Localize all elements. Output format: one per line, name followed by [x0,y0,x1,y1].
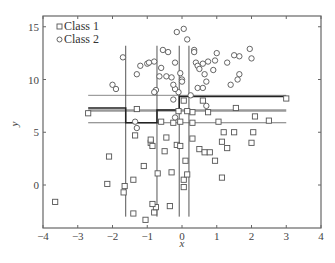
class-2-marker [160,47,165,52]
class-1-marker [284,96,289,101]
class-1-marker [266,118,271,123]
class-1-marker [252,114,257,119]
class-1-marker [219,139,224,144]
x-axis-label: x [179,237,185,249]
class-1-marker [200,98,205,103]
class-1-marker [181,177,186,182]
class-1-marker [233,105,238,110]
x-tick-label: 2 [249,230,255,242]
class-1-marker [143,217,148,222]
class-1-marker [171,120,176,125]
class-2-marker [134,72,139,77]
class-1-marker [202,150,207,155]
class-1-marker [106,154,111,159]
class-2-marker [113,86,118,91]
class-2-marker [157,74,162,79]
y-tick-label: 10 [28,74,40,86]
class-2-marker [138,63,143,68]
class-2-marker [204,79,209,84]
class-1-marker [162,149,167,154]
class-2-marker [228,82,233,87]
class-2-marker [178,70,183,75]
y-axis-label: y [8,121,20,127]
class-2-marker [120,55,125,60]
class-2-marker [134,125,139,130]
legend-circle-icon [57,37,62,42]
class-2-marker [188,93,193,98]
class-2-marker [224,60,229,65]
class-1-marker [190,136,195,141]
class-1-marker [207,150,212,155]
class-1-marker [131,211,136,216]
class-1-marker [141,163,146,168]
x-tick-label: −3 [72,230,84,242]
class-1-marker [105,181,110,186]
class-1-marker [150,143,155,148]
y-tick-label: 0 [34,179,40,191]
class-2-marker [174,29,179,34]
class-2-marker [212,58,217,63]
class-2-marker [249,56,254,61]
class-1-marker [152,210,157,215]
class-1-marker [212,158,217,163]
class-1-marker [232,130,237,135]
class-2-marker [214,50,219,55]
legend-label-class-2: Class 2 [64,32,99,46]
class-2-marker [152,59,157,64]
class-1-marker [53,199,58,204]
class-1-marker [185,109,190,114]
class-1-marker [86,111,91,116]
class-2-marker [237,54,242,59]
x-tick-label: −4 [37,230,49,242]
class-1-marker [185,172,190,177]
class-2-marker [211,67,216,72]
class-1-marker [183,158,188,163]
class-2-marker [204,103,209,108]
x-tick-label: −2 [107,230,119,242]
class-2-marker [185,37,190,42]
class-2-marker [235,77,240,82]
class-2-marker [132,119,137,124]
legend-label-class-1: Class 1 [64,19,99,33]
class-1-marker [121,190,126,195]
class-1-marker [178,143,183,148]
class-1-marker [249,140,254,145]
class-1-marker [219,175,224,180]
class-1-marker [122,183,127,188]
class-2-marker [200,85,205,90]
class-2-marker [164,74,169,79]
class-2-marker [158,65,163,70]
class-2-marker [195,85,200,90]
class-1-marker [251,130,256,135]
class-2-marker [179,79,184,84]
class-1-marker [181,185,186,190]
class-2-marker [191,49,196,54]
class-1-marker [176,109,181,114]
class-2-marker [152,89,157,94]
class-2-marker [169,75,174,80]
class-1-marker [190,120,195,125]
class-2-marker [172,60,177,65]
class-1-marker [181,98,186,103]
class-2-marker [197,66,202,71]
x-tick-label: 4 [318,230,324,242]
class-1-marker [155,171,160,176]
class-1-marker [225,145,230,150]
class-2-marker [146,60,151,65]
class-1-marker [131,177,136,182]
class-1-marker [221,130,226,135]
legend-square-icon [57,24,62,29]
class-1-marker [190,110,195,115]
class-2-marker [172,115,177,120]
class-2-marker [171,82,176,87]
class-1-marker [150,201,155,206]
x-tick-label: −1 [141,230,153,242]
class-2-marker [200,61,205,66]
class-1-marker [197,147,202,152]
class-1-marker [167,204,172,209]
class-2-marker [237,72,242,77]
legend: Class 1 Class 2 [57,19,99,46]
class-2-marker [171,97,176,102]
class-1-marker [178,119,183,124]
y-tick-labels: 051015 [28,21,40,191]
